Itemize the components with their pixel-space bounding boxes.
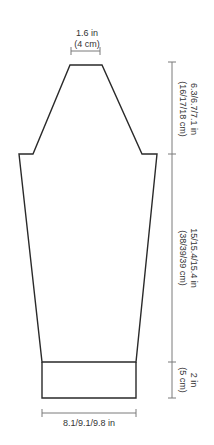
cap-height-label: 6.3/6.7/7.1 in (16/17/18 cm) bbox=[175, 59, 199, 159]
cuff-width-dimension bbox=[42, 409, 136, 417]
cuff-width-label: 8.1/9.1/9.8 in bbox=[39, 418, 139, 429]
top-width-label: 1.6 in (4 cm) bbox=[57, 28, 117, 50]
cuff-height-imperial: 2 in bbox=[188, 355, 199, 405]
sleeve-outline bbox=[19, 65, 157, 362]
cuff-height-label: 2 in (5 cm) bbox=[175, 355, 199, 405]
cuff-band bbox=[42, 362, 136, 398]
cap-height-imperial: 6.3/6.7/7.1 in bbox=[188, 59, 199, 159]
sleeve-length-label: 15/15.4/15.4 in (38/39/39 cm) bbox=[175, 208, 199, 308]
sleeve-length-metric: (38/39/39 cm) bbox=[177, 208, 188, 308]
sleeve-length-imperial: 15/15.4/15.4 in bbox=[188, 208, 199, 308]
cuff-height-metric: (5 cm) bbox=[177, 355, 188, 405]
top-width-imperial: 1.6 in bbox=[57, 28, 117, 39]
cap-height-metric: (16/17/18 cm) bbox=[177, 59, 188, 159]
top-width-metric: (4 cm) bbox=[57, 39, 117, 50]
cuff-width-imperial: 8.1/9.1/9.8 in bbox=[39, 418, 139, 429]
